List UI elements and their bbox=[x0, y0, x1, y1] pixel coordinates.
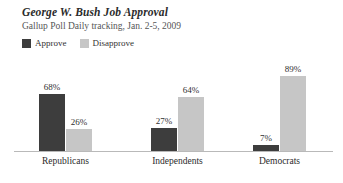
bar-value-label: 26% bbox=[71, 118, 88, 127]
bar-rect bbox=[151, 128, 177, 151]
legend-item-approve: Approve bbox=[22, 38, 67, 48]
bar-approve: 68% bbox=[39, 55, 65, 151]
bar-rect bbox=[66, 129, 92, 151]
bar-rect bbox=[253, 145, 279, 151]
bar-rect bbox=[178, 97, 204, 151]
bar-group: 27% 64% Independents bbox=[151, 55, 204, 151]
bar-rect bbox=[39, 94, 65, 151]
bar-value-label: 68% bbox=[44, 83, 61, 92]
chart-legend: Approve Disapprove bbox=[22, 38, 134, 48]
bar-approve: 27% bbox=[151, 55, 177, 151]
page-title: George W. Bush Job Approval bbox=[22, 6, 168, 18]
bar-value-label: 7% bbox=[260, 134, 272, 143]
bar-value-label: 27% bbox=[156, 117, 173, 126]
bar-disapprove: 89% bbox=[280, 55, 306, 151]
bar-group: 7% 89% Democrats bbox=[253, 55, 306, 151]
legend-swatch-disapprove bbox=[80, 39, 89, 48]
category-label: Independents bbox=[151, 156, 204, 166]
bar-group: 68% 26% Republicans bbox=[39, 55, 92, 151]
legend-item-disapprove: Disapprove bbox=[80, 38, 135, 48]
bar-value-label: 89% bbox=[285, 65, 302, 74]
category-label: Republicans bbox=[39, 156, 92, 166]
bar-value-label: 64% bbox=[183, 86, 200, 95]
bar-approve: 7% bbox=[253, 55, 279, 151]
axis-baseline bbox=[14, 151, 333, 152]
plot-area: 68% 26% Republicans 27% 64% bbox=[0, 55, 343, 183]
chart-figure: George W. Bush Job Approval Gallup Poll … bbox=[0, 0, 343, 183]
bar-disapprove: 26% bbox=[66, 55, 92, 151]
chart-subtitle: Gallup Poll Daily tracking, Jan. 2-5, 20… bbox=[22, 21, 181, 31]
bar-disapprove: 64% bbox=[178, 55, 204, 151]
bar-rect bbox=[280, 76, 306, 151]
legend-swatch-approve bbox=[22, 39, 31, 48]
legend-label-disapprove: Disapprove bbox=[93, 38, 135, 48]
category-label: Democrats bbox=[253, 156, 306, 166]
legend-label-approve: Approve bbox=[35, 38, 67, 48]
